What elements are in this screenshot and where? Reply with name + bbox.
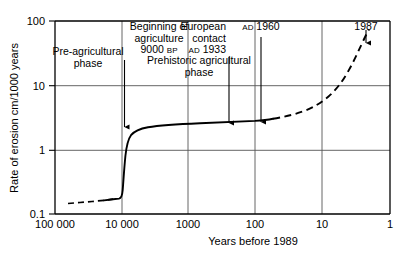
x-axis-title: Years before 1989 <box>208 235 298 247</box>
y-label-10: 10 <box>33 80 45 92</box>
y-axis-title: Rate of erosion cm/1000 years <box>8 43 20 193</box>
y-label-1: 1 <box>39 144 45 156</box>
euro-line2: contact <box>192 32 226 44</box>
year-1987-label: 1987 <box>354 20 378 32</box>
x-label-10000: 10 000 <box>105 218 139 230</box>
begin-ag-line2: agriculture <box>134 32 183 44</box>
x-label-1: 1 <box>387 218 393 230</box>
prehist-line1: Prehistoric agricultural <box>147 54 251 66</box>
x-label-100000: 100 000 <box>35 218 75 230</box>
annotation-1987: 1987 <box>354 20 378 32</box>
x-label-10: 10 <box>316 218 328 230</box>
pre-ag-line1: Pre-agricultural <box>52 45 123 57</box>
erosion-rate-chart: Beginning of agriculture 9000 BP Europea… <box>0 0 410 259</box>
prehist-line2: phase <box>185 66 214 78</box>
pre-ag-line2: phase <box>74 57 103 69</box>
ad1960-era: AD <box>242 23 253 32</box>
y-label-100: 100 <box>27 15 45 27</box>
ad1960-year: 1960 <box>253 20 279 32</box>
x-label-1000: 1000 <box>176 218 200 230</box>
x-label-100: 100 <box>246 218 264 230</box>
euro-line1: European <box>180 20 226 32</box>
